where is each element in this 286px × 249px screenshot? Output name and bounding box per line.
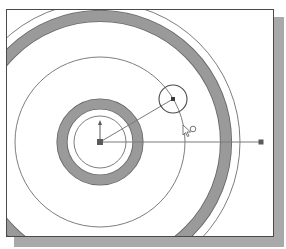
arrow-up-icon [98, 120, 102, 125]
cad-sketch-viewport[interactable] [6, 9, 274, 237]
sketch-canvas[interactable] [7, 10, 274, 237]
line-endpoint-handle[interactable] [259, 140, 264, 145]
origin-point[interactable] [97, 139, 103, 145]
small-circle-center-point[interactable] [171, 97, 175, 101]
